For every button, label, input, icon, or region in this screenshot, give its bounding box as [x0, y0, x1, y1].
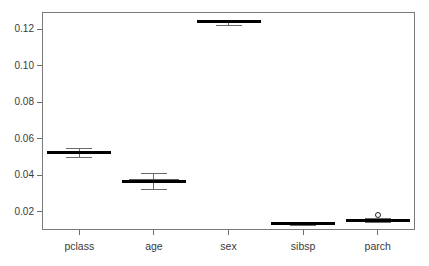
- whisker-upper-cap: [141, 173, 167, 174]
- x-tick-label-age: age: [145, 240, 163, 253]
- y-tick-mark: [37, 138, 42, 139]
- y-tick-label: 0.06: [15, 132, 34, 145]
- x-tick-label-sibsp: sibsp: [291, 240, 316, 253]
- y-axis: 0.020.040.060.080.100.12: [0, 0, 42, 266]
- y-tick-mark: [37, 175, 42, 176]
- median-line: [197, 20, 261, 23]
- y-tick-mark: [37, 211, 42, 212]
- y-tick-label: 0.08: [15, 95, 34, 108]
- y-tick-mark: [37, 29, 42, 30]
- x-tick-mark: [377, 230, 378, 235]
- x-tick-mark: [303, 230, 304, 235]
- whisker-lower-cap: [290, 225, 316, 226]
- whisker-lower-cap: [66, 157, 92, 158]
- median-line: [47, 151, 111, 154]
- whisker-lower-cap: [216, 25, 242, 26]
- y-tick-label: 0.10: [15, 59, 34, 72]
- y-tick-label: 0.04: [15, 168, 34, 181]
- plot-frame: [42, 12, 415, 230]
- y-tick-label: 0.02: [15, 205, 34, 218]
- boxplot-figure: 0.020.040.060.080.100.12 pclassagesexsib…: [0, 0, 429, 266]
- whisker-lower-cap: [365, 222, 391, 223]
- x-tick-label-sex: sex: [220, 240, 236, 253]
- median-line: [346, 219, 410, 222]
- median-line: [271, 222, 335, 225]
- x-tick-mark: [228, 230, 229, 235]
- x-tick-label-pclass: pclass: [64, 240, 94, 253]
- x-tick-label-parch: parch: [365, 240, 391, 253]
- median-line: [122, 180, 186, 183]
- y-tick-label: 0.12: [15, 22, 34, 35]
- x-tick-mark: [79, 230, 80, 235]
- x-tick-mark: [153, 230, 154, 235]
- whisker-lower-cap: [141, 189, 167, 190]
- y-tick-mark: [37, 65, 42, 66]
- y-tick-mark: [37, 102, 42, 103]
- whisker-upper-cap: [66, 148, 92, 149]
